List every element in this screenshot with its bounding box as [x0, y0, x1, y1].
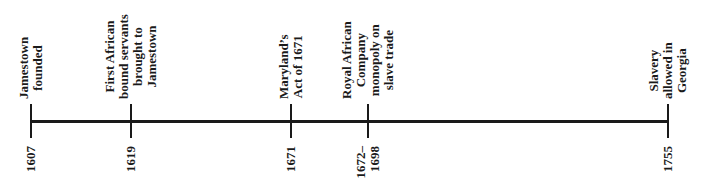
- event-label-line: Jamestown: [145, 14, 159, 99]
- event-label-line: Georgia: [675, 42, 689, 99]
- event-label-line: bound servants: [117, 14, 131, 99]
- year-text: 1607: [24, 146, 38, 172]
- tick-1672-1698: [367, 104, 369, 138]
- event-label-line: slave trade: [382, 21, 396, 99]
- event-label-line: Jamestown: [17, 37, 31, 99]
- year-text: 1619: [124, 146, 138, 172]
- event-label-line: Slavery: [647, 42, 661, 99]
- event-label-line: monopoly on: [368, 21, 382, 99]
- timeline-axis: [31, 120, 669, 123]
- event-label-line: brought to: [131, 14, 145, 99]
- tick-1671: [290, 104, 292, 138]
- event-label-line: First African: [103, 14, 117, 99]
- tick-1619: [130, 104, 132, 138]
- tick-1755: [667, 104, 669, 138]
- event-label-line: Company: [354, 21, 368, 99]
- event-label-line: Maryland’s: [277, 34, 291, 99]
- year-text: 1671: [284, 146, 298, 172]
- event-label-line: Act of 1671: [291, 34, 305, 99]
- year-text: 1698: [368, 146, 382, 179]
- year-text: 1672–: [354, 146, 368, 179]
- event-label-line: founded: [31, 37, 45, 99]
- year-text: 1755: [661, 146, 675, 172]
- event-label-line: allowed in: [661, 42, 675, 99]
- event-label-line: Royal African: [340, 21, 354, 99]
- tick-1607: [30, 104, 32, 138]
